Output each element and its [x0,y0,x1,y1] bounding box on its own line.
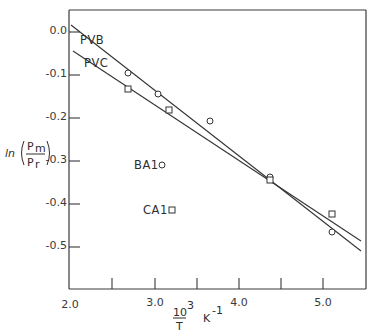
ba1-label: BA1 [134,158,159,172]
y-tick-label: 0.0 [50,24,68,37]
pvc-fit-line [73,51,361,241]
ca1-label: CA1 [143,203,168,217]
y-tick-label: -0.5 [46,239,67,252]
svg-text:10: 10 [173,306,187,319]
data-point-circle [329,229,335,235]
svg-text:P: P [27,156,34,169]
data-point-square [329,211,335,217]
data-point-circle [155,91,161,97]
svg-text:r: r [35,158,40,171]
x-axis-label: 10 3 T K -1 [173,299,223,333]
svg-text:ln: ln [5,147,15,160]
y-axis-label: ln P m P r [5,140,50,171]
svg-text:K: K [203,312,211,325]
svg-text:-1: -1 [212,304,223,317]
arrhenius-chart: 0.0 -0.1 -0.2 -0.3 -0.4 -0.5 2.0 3.0 4.0… [0,0,375,335]
data-point-circle [125,70,131,76]
ca1-point-square [169,207,175,213]
x-tick-label: 2.0 [61,298,79,311]
y-ticks [69,32,80,247]
pvc-label: PVC [84,56,108,70]
data-point-square [166,107,172,113]
y-tick-label: -0.4 [46,196,67,209]
x-ticks [112,278,323,289]
pvb-label: PVB [80,33,104,47]
data-point-square [267,177,273,183]
svg-text:P: P [27,140,34,153]
y-tick-label: -0.1 [46,67,67,80]
x-tick-label: 5.0 [314,296,332,309]
pvb-fit-line [71,25,361,251]
data-point-square [125,86,131,92]
x-tick-label: 4.0 [230,296,248,309]
x-tick-labels: 2.0 3.0 4.0 5.0 [61,296,332,311]
svg-text:m: m [35,142,46,155]
svg-text:3: 3 [187,299,194,312]
svg-text:T: T [175,320,183,333]
y-tick-label: -0.2 [46,110,67,123]
plot-frame [69,10,366,289]
ba1-point-circle [159,162,165,168]
y-tick-labels: 0.0 -0.1 -0.2 -0.3 -0.4 -0.5 [46,24,67,252]
data-point-circle [207,118,213,124]
x-tick-label: 3.0 [146,296,164,309]
